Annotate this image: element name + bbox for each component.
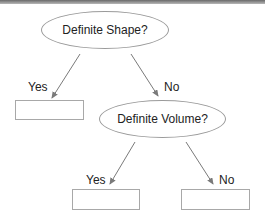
edge-volume-no-arrow (186, 142, 213, 184)
edge-root-yes-arrow (52, 54, 80, 98)
volume-decision-node: Definite Volume? (99, 100, 226, 138)
volume-yes-answer-box (72, 189, 140, 210)
shape-yes-answer-box (15, 100, 84, 120)
volume-no-answer-box (181, 189, 250, 210)
edge-volume-no-label: No (219, 173, 234, 187)
edge-volume-yes-arrow (110, 142, 135, 184)
edge-root-yes-label: Yes (28, 80, 48, 94)
edge-root-no-arrow (131, 54, 158, 96)
edge-root-no-label: No (164, 80, 179, 94)
root-decision-text: Definite Shape? (62, 23, 147, 37)
edge-volume-yes-label: Yes (86, 173, 106, 187)
volume-decision-text: Definite Volume? (117, 112, 208, 126)
root-decision-node: Definite Shape? (41, 11, 169, 49)
